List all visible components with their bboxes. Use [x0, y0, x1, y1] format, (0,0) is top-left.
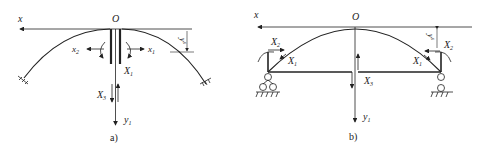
X2-label-right-b: X2 — [443, 39, 453, 51]
panel-a: x O y1 x2 x1 X1 — [17, 13, 211, 144]
X3-label-a: X3 — [96, 89, 106, 101]
X1-label-left-b: X1 — [287, 55, 297, 67]
arch-left-half-a — [24, 29, 110, 78]
X1-label-right-b: X1 — [412, 55, 422, 67]
fixed-support-right-a — [200, 78, 211, 86]
origin-label-b: O — [352, 11, 359, 22]
caption-b: b) — [349, 131, 357, 143]
X2-label-left-b: X2 — [270, 36, 280, 48]
y1-label-b: y1 — [362, 111, 370, 123]
arch-diagram: x O y1 x2 x1 X1 — [0, 0, 485, 154]
x2-label-a: x2 — [71, 44, 79, 55]
origin-label-a: O — [112, 13, 119, 24]
ys-label-b: ys — [426, 33, 436, 41]
X1-label-a: X1 — [123, 65, 133, 77]
x-axis-label-a: x — [17, 13, 23, 24]
caption-a: a) — [110, 132, 118, 144]
panel-b: x O — [253, 9, 472, 143]
y1-label-a: y1 — [123, 114, 131, 126]
fixed-support-left-a — [18, 76, 28, 84]
arch-right-half-a — [122, 29, 206, 84]
moment-arc-right-a — [126, 42, 131, 58]
moment-arc-left-a — [100, 42, 105, 58]
x-axis-label-b: x — [253, 9, 259, 20]
X3-label-b: X3 — [363, 75, 373, 87]
ys-label-a: ys — [178, 37, 188, 45]
x1-label-a: x1 — [147, 44, 155, 55]
roller-support-right-b — [431, 52, 453, 97]
